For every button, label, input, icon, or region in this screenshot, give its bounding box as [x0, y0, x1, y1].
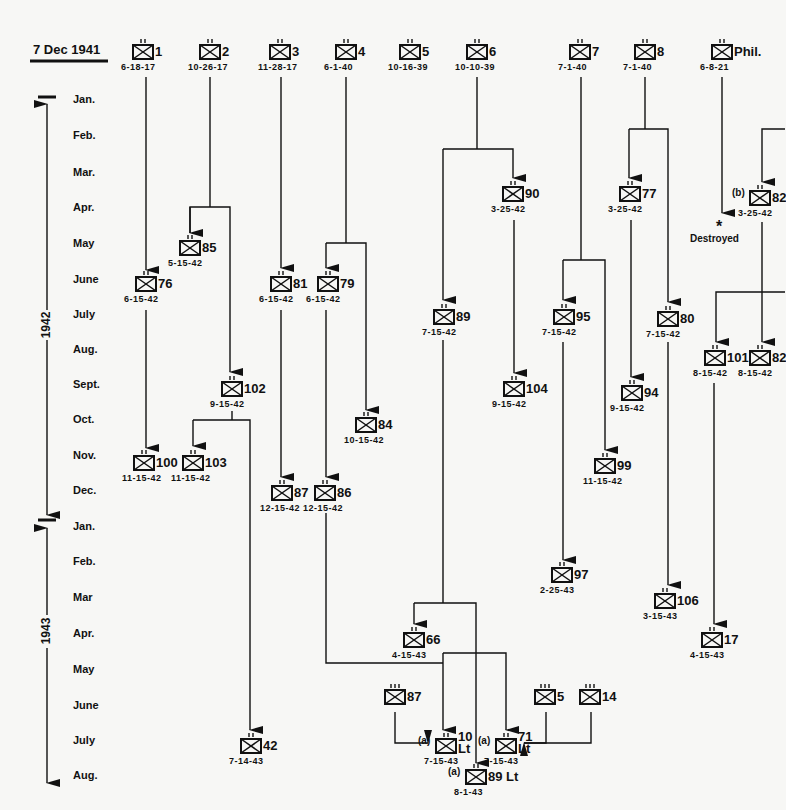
unit-activation-date: 3-25-42: [491, 204, 526, 214]
unit-number: 17: [724, 632, 738, 647]
unit-number: 3: [292, 44, 299, 59]
infantry-division-icon: [702, 627, 722, 647]
unit-activation-date: 7-15-42: [422, 327, 457, 337]
infantry-division-icon: [658, 306, 678, 326]
infantry-division-icon: [318, 271, 338, 291]
unit-number: 80: [680, 311, 694, 326]
unit-number: 102: [244, 381, 266, 396]
infantry-division-icon: [356, 412, 376, 432]
infantry-division-icon: [570, 39, 590, 59]
unit-activation-date: 11-15-42: [122, 473, 162, 483]
unit-number: 10 Lt: [458, 731, 478, 755]
unit-activation-date: 10-26-17: [188, 62, 228, 72]
month-label: Sept.: [73, 378, 100, 390]
unit-activation-date: 3-25-42: [738, 208, 773, 218]
unit-activation-date: 7-15-43: [424, 756, 459, 766]
infantry-division-icon: [404, 627, 424, 647]
month-label: Mar.: [73, 166, 95, 178]
infantry-division-icon: [133, 39, 153, 59]
unit-number: 94: [644, 385, 658, 400]
unit-activation-date: 4-15-43: [690, 650, 725, 660]
unit-activation-date: 8-1-43: [454, 787, 483, 797]
start-date-label: 7 Dec 1941: [33, 42, 100, 57]
month-label: Dec.: [73, 484, 96, 496]
unit-number: 71 Lt: [518, 731, 538, 755]
infantry-division-icon: [271, 271, 291, 291]
month-label: Oct.: [73, 413, 94, 425]
infantry-division-icon: [183, 450, 203, 470]
unit-number: 79: [340, 276, 354, 291]
unit-number: 89 Lt: [488, 769, 518, 784]
unit-activation-date: 2-25-43: [540, 585, 575, 595]
year-1943-label: 1943: [39, 618, 53, 645]
infantry-division-icon: [400, 39, 420, 59]
unit-activation-date: 6-15-42: [306, 294, 341, 304]
unit-number: 42: [263, 738, 277, 753]
unit-activation-date: 3-15-43: [643, 611, 678, 621]
unit-activation-date: 6-8-21: [700, 62, 729, 72]
infantry-division-icon: [496, 733, 516, 753]
infantry-division-icon: [336, 39, 356, 59]
unit-number: 85: [202, 240, 216, 255]
infantry-division-icon: [270, 39, 290, 59]
month-label: Aug.: [73, 769, 97, 781]
unit-activation-date: 8-15-42: [693, 368, 728, 378]
month-label: Feb.: [73, 555, 96, 567]
unit-number: Phil.: [734, 44, 761, 59]
month-label: Apr.: [73, 627, 94, 639]
unit-activation-date: 6-15-42: [124, 294, 159, 304]
unit-activation-date: 10-10-39: [455, 62, 495, 72]
unit-activation-date: 5-15-42: [168, 258, 203, 268]
unit-activation-date: 7-15-42: [542, 327, 577, 337]
unit-number: 106: [677, 593, 699, 608]
unit-number: 89: [456, 309, 470, 324]
unit-activation-date: 7-15-42: [646, 329, 681, 339]
unit-activation-date: 10-15-42: [344, 435, 384, 445]
unit-activation-date: 10-16-39: [388, 62, 428, 72]
footnote-marker: (a): [448, 766, 460, 777]
footnote-marker: (a): [478, 735, 490, 746]
month-label: May: [73, 237, 94, 249]
month-label: Feb.: [73, 129, 96, 141]
infantry-division-icon: [655, 588, 675, 608]
footnote-marker: (b): [732, 187, 745, 198]
infantry-division-icon: [467, 39, 487, 59]
unit-number: 4: [358, 44, 365, 59]
unit-number: 6: [489, 44, 496, 59]
infantry-division-icon: [504, 376, 524, 396]
unit-activation-date: 6-1-40: [324, 62, 353, 72]
unit-activation-date: 6-18-17: [121, 62, 156, 72]
unit-activation-date: 7-14-43: [229, 756, 264, 766]
unit-number: 99: [617, 458, 631, 473]
unit-activation-date: 4-15-43: [392, 650, 427, 660]
infantry-division-icon: [712, 39, 732, 59]
unit-number: 86: [337, 485, 351, 500]
infantry-division-icon: [272, 480, 292, 500]
unit-number: 7: [592, 44, 599, 59]
unit-number: 8: [657, 44, 664, 59]
unit-number: 95: [576, 309, 590, 324]
unit-activation-date: 11-28-17: [258, 62, 298, 72]
infantry-division-icon: [385, 684, 405, 704]
unit-symbols: [133, 39, 770, 784]
unit-activation-date: 6-15-42: [259, 294, 294, 304]
month-label: June: [73, 699, 99, 711]
unit-number: 5: [557, 689, 564, 704]
month-label: June: [73, 273, 99, 285]
infantry-division-icon: [434, 304, 454, 324]
infantry-division-icon: [436, 733, 456, 753]
unit-activation-date: 7-1-40: [623, 62, 652, 72]
infantry-division-icon: [580, 684, 600, 704]
infantry-division-icon: [750, 185, 770, 205]
unit-activation-date: 3-25-42: [608, 204, 643, 214]
unit-number: 82: [772, 350, 786, 365]
month-label: Apr.: [73, 201, 94, 213]
unit-activation-date: 7-1-40: [558, 62, 587, 72]
month-label: Jan.: [73, 520, 95, 532]
unit-activation-date: 8-15-42: [738, 368, 773, 378]
unit-activation-date: 12-15-42: [260, 503, 300, 513]
infantry-division-icon: [315, 480, 335, 500]
infantry-division-icon: [134, 450, 154, 470]
month-label: Aug.: [73, 343, 97, 355]
